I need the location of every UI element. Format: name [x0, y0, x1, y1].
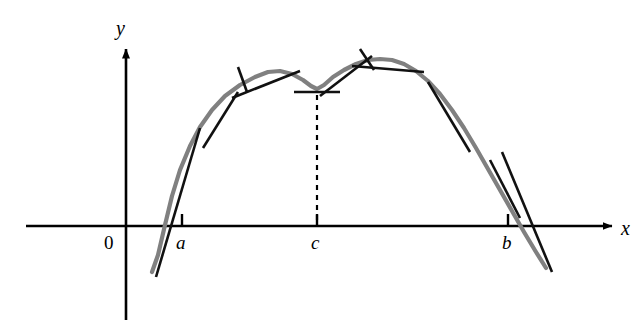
tick-label-c: c: [311, 233, 319, 252]
tangent-right-fall-upper: [428, 82, 470, 152]
function-curve: [152, 59, 546, 272]
figure-container: y x 0 a c b: [0, 0, 637, 325]
tangent-first-peak-crossbar: [238, 67, 247, 92]
figure-canvas: [0, 0, 637, 325]
tangent-right-rise: [320, 56, 372, 96]
tick-label-a: a: [176, 233, 186, 252]
tangent-line-group: [156, 49, 552, 277]
tangent-at-b: [502, 152, 552, 272]
origin-label: 0: [104, 233, 114, 252]
tick-mark-group: [182, 214, 508, 226]
tangent-right-fall-lower: [490, 160, 520, 218]
y-axis-label: y: [116, 18, 125, 38]
tick-label-b: b: [502, 233, 512, 252]
x-axis-label: x: [621, 218, 630, 238]
tangent-at-a: [156, 128, 200, 277]
